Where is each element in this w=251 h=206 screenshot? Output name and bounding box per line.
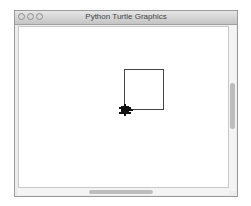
- turtle-icon: [119, 104, 133, 116]
- drawn-square: [125, 70, 164, 110]
- drawing-surface: [19, 27, 229, 188]
- title-bar[interactable]: Python Turtle Graphics: [15, 11, 237, 25]
- vertical-scrollbar[interactable]: [229, 25, 236, 191]
- horizontal-scrollbar[interactable]: [18, 188, 229, 195]
- turtle-canvas[interactable]: [18, 26, 229, 188]
- turtle-window: Python Turtle Graphics: [14, 10, 238, 197]
- vertical-scroll-thumb[interactable]: [230, 83, 235, 129]
- horizontal-scroll-thumb[interactable]: [89, 190, 153, 194]
- window-title: Python Turtle Graphics: [15, 12, 237, 21]
